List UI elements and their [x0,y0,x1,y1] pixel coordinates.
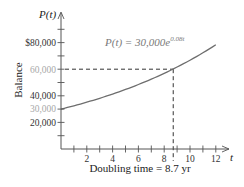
x-axis-label: t [230,151,234,163]
doubling-guides [65,69,173,161]
y-tick-label: 60,000 [30,65,56,75]
y-axis-side-label: Balance [12,62,24,98]
doubling-time-chart: 24681012 $80,00060,00040,00030,00020,000… [0,0,244,187]
y-tick-label: 30,000 [30,104,56,114]
formula-lhs: P(t) = 30,000 [104,36,166,49]
y-tick-labels: $80,00060,00040,00030,00020,000 [25,38,56,128]
y-axis-top-label: P(t) [38,8,56,21]
doubling-time-caption: Doubling time = 8.7 yr [89,162,191,174]
growth-curve [61,45,216,109]
formula-label: P(t) = 30,000e0.08t [104,35,185,49]
y-tick-label: 20,000 [30,118,56,128]
formula-exponent: 0.08t [170,35,185,43]
x-tick-label: 12 [211,154,221,164]
y-tick-label: 40,000 [30,91,56,101]
y-tick-label: $80,000 [25,38,56,48]
